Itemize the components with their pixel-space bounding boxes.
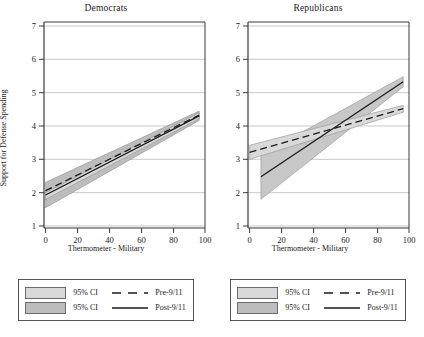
ci-label-pre: 95% CI xyxy=(73,288,105,297)
legend-republicans: 95% CI Pre-9/11 95% CI Post-9/11 xyxy=(230,279,405,321)
ci-label-post: 95% CI xyxy=(285,303,317,312)
y-tick-label: 4 xyxy=(236,121,241,131)
legend-row-pre: 95% CI Pre-9/11 xyxy=(25,285,185,300)
line-sample-pre xyxy=(323,288,361,298)
x-tick-label: 100 xyxy=(403,235,416,245)
ci-swatch-pre xyxy=(237,287,278,299)
plot-area-democrats: 7 6 5 4 3 2 1 0 20 40 60 80 100 xyxy=(0,0,212,250)
x-axis-label-left: Thermometer - Military xyxy=(18,244,194,253)
y-tick-label: 2 xyxy=(32,188,36,198)
series-label-post: Post-9/11 xyxy=(367,303,397,312)
series-label-pre: Pre-9/11 xyxy=(367,288,394,297)
y-tick-label: 6 xyxy=(236,54,240,64)
chart-legends: 95% CI Pre-9/11 95% CI Post-9/11 95% CI xyxy=(0,275,424,337)
y-tick-label: 3 xyxy=(236,154,240,164)
y-tick-label: 6 xyxy=(32,54,36,64)
y-tick-label: 1 xyxy=(32,221,36,231)
panel-republicans: Republicans xyxy=(212,0,424,275)
line-sample-post xyxy=(111,303,149,313)
y-tick-label: 2 xyxy=(236,188,240,198)
legend-wrap-right: 95% CI Pre-9/11 95% CI Post-9/11 xyxy=(212,275,424,337)
y-ticks-right: 7 6 5 4 3 2 1 xyxy=(236,21,248,231)
y-tick-label: 3 xyxy=(32,154,36,164)
y-tick-label: 5 xyxy=(32,88,36,98)
ci-swatch-post xyxy=(237,302,278,314)
y-tick-label: 4 xyxy=(32,121,37,131)
legend-democrats: 95% CI Pre-9/11 95% CI Post-9/11 xyxy=(18,279,193,321)
y-tick-label: 5 xyxy=(236,88,240,98)
panel-democrats: Democrats Support for Defense Spending xyxy=(0,0,212,275)
plot-area-republicans: 7 6 5 4 3 2 1 0 20 40 60 80 100 xyxy=(212,0,424,250)
line-sample-pre xyxy=(111,288,149,298)
line-post-left xyxy=(46,116,200,195)
line-post-right xyxy=(261,82,403,177)
x-ticks-right: 0 20 40 60 80 100 xyxy=(247,228,415,245)
series-label-post: Post-9/11 xyxy=(155,303,185,312)
legend-row-pre: 95% CI Pre-9/11 xyxy=(237,285,397,300)
ci-label-post: 95% CI xyxy=(73,303,105,312)
x-tick-label: 100 xyxy=(199,235,212,245)
y-tick-label: 1 xyxy=(236,221,240,231)
ci-swatch-pre xyxy=(25,287,66,299)
x-axis-label-right: Thermometer - Military xyxy=(222,244,398,253)
x-ticks-left: 0 20 40 60 80 100 xyxy=(43,228,211,245)
series-label-pre: Pre-9/11 xyxy=(155,288,182,297)
y-tick-label: 7 xyxy=(236,21,240,31)
ci-swatch-post xyxy=(25,302,66,314)
chart-panels: Democrats Support for Defense Spending xyxy=(0,0,424,275)
legend-wrap-left: 95% CI Pre-9/11 95% CI Post-9/11 xyxy=(0,275,212,337)
y-ticks-left: 7 6 5 4 3 2 1 xyxy=(32,21,44,231)
legend-row-post: 95% CI Post-9/11 xyxy=(237,300,397,315)
ci-label-pre: 95% CI xyxy=(285,288,317,297)
line-sample-post xyxy=(323,303,361,313)
legend-row-post: 95% CI Post-9/11 xyxy=(25,300,185,315)
y-tick-label: 7 xyxy=(32,21,36,31)
